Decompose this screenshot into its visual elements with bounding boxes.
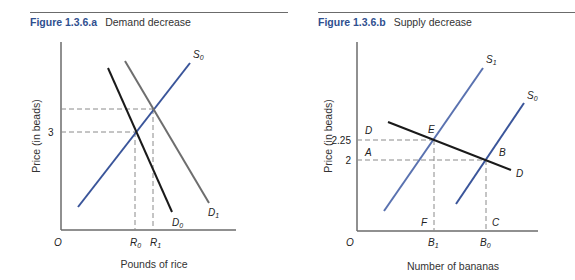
figure-a-x-tick-r0: R0 xyxy=(130,237,141,249)
figure-a-x-tick-r1: R1 xyxy=(150,237,161,249)
figure-a-label-s0: S0 xyxy=(193,49,204,61)
figure-b-point-a: A xyxy=(364,147,372,158)
figure-b-point-b: B xyxy=(499,147,506,158)
figure-b-x-axis-title: Number of bananas xyxy=(407,260,499,272)
figure-a-curve-s0 xyxy=(78,63,190,207)
figure-a-x-axis-title: Pounds of rice xyxy=(120,258,187,270)
figure-b-point-f: F xyxy=(421,217,428,228)
figure-a-curve-d0 xyxy=(108,68,172,212)
figure-a-y-tick-3: 3 xyxy=(48,127,54,138)
figure-b-chart: S1 S0 D D E A B F C 2.25 2 O B1 B0 Numbe… xyxy=(322,42,538,272)
figure-a-label-d1: D1 xyxy=(208,207,219,219)
charts-canvas: S0 D1 D0 3 O R0 R1 Pounds of rice Price … xyxy=(0,0,575,280)
figure-b-point-c: C xyxy=(492,217,500,228)
figure-b-y-axis-title: Price (in beads) xyxy=(322,99,334,173)
figure-b-curve-d xyxy=(388,122,511,170)
figure-b-label-d: D xyxy=(516,168,523,179)
figure-a-origin: O xyxy=(54,237,62,248)
figure-b-y-tick-2-25: 2.25 xyxy=(332,135,352,146)
figure-b-point-e: E xyxy=(428,124,435,135)
figure-b-x-tick-b0: B0 xyxy=(480,237,491,249)
figure-b-point-d: D xyxy=(365,125,372,136)
figure-b-x-tick-b1: B1 xyxy=(428,237,439,249)
figure-b-label-s1: S1 xyxy=(486,54,497,66)
figure-b-label-s0: S0 xyxy=(527,90,538,102)
figure-a-chart: S0 D1 D0 3 O R0 R1 Pounds of rice Price … xyxy=(30,42,236,270)
figure-b-origin: O xyxy=(346,237,354,248)
figure-a-label-d0: D0 xyxy=(172,217,183,229)
figure-a-y-axis-title: Price (in beads) xyxy=(30,99,42,173)
figure-b-y-tick-2: 2 xyxy=(345,155,351,166)
